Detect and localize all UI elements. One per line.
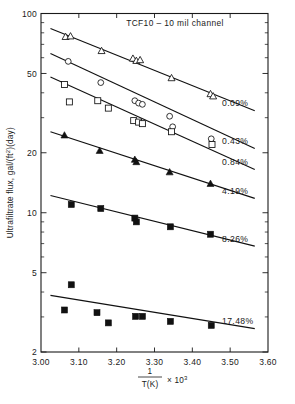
- x-tick-label: 3.60: [259, 357, 277, 367]
- data-point: [61, 82, 67, 88]
- series-label-009: 0.09%: [222, 98, 248, 108]
- series-1748: 17.48%: [50, 282, 254, 329]
- data-point: [98, 206, 104, 212]
- data-point: [133, 219, 139, 225]
- x-tick-label: 3.30: [146, 357, 164, 367]
- data-point: [209, 142, 215, 148]
- data-point: [61, 307, 67, 313]
- data-point: [98, 80, 104, 86]
- y-tick-label: 5: [32, 268, 37, 278]
- data-point: [208, 322, 214, 328]
- plot-title: TCF10 – 10 mil channel: [126, 18, 224, 28]
- y-tick-label: 100: [22, 9, 37, 19]
- data-point: [208, 136, 214, 142]
- series-label-084: 0.84%: [222, 157, 248, 167]
- x-tick-label: 3.20: [108, 357, 126, 367]
- x-axis-title-numerator: 1: [148, 367, 153, 376]
- data-point: [105, 105, 111, 111]
- data-point: [66, 99, 72, 105]
- data-point: [68, 282, 74, 288]
- x-axis-title-denominator: T(K): [142, 380, 159, 389]
- data-point: [207, 231, 213, 237]
- data-point: [169, 129, 175, 135]
- data-point: [139, 101, 145, 107]
- data-point: [167, 113, 173, 119]
- chart-figure: 3.003.103.203.303.403.503.60100502010520…: [0, 0, 295, 404]
- series-label-419: 4.19%: [222, 186, 248, 196]
- data-point: [65, 58, 71, 64]
- series-label-043: 0.43%: [222, 136, 248, 146]
- series-label-826: 8.26%: [222, 234, 248, 244]
- data-point: [133, 313, 139, 319]
- y-tick-label: 2: [32, 347, 37, 357]
- y-tick-label: 50: [27, 69, 37, 79]
- series-084: 0.84%: [50, 77, 254, 169]
- data-point: [68, 201, 74, 207]
- x-tick-label: 3.10: [70, 357, 88, 367]
- data-point: [95, 98, 101, 104]
- x-tick-label: 3.50: [221, 357, 239, 367]
- series-826: 8.26%: [50, 196, 254, 247]
- x-tick-label: 3.40: [183, 357, 201, 367]
- data-point: [168, 74, 175, 80]
- x-tick-label: 3.00: [32, 357, 50, 367]
- data-point: [61, 132, 68, 138]
- plot-frame: [41, 14, 268, 353]
- data-point: [105, 320, 111, 326]
- data-point: [167, 224, 173, 230]
- data-point: [139, 121, 145, 127]
- y-tick-label: 20: [27, 148, 37, 158]
- data-point: [139, 313, 145, 319]
- y-tick-label: 10: [27, 208, 37, 218]
- y-axis-title: Ultrafiltrate flux, gal/(ft2)(day): [5, 127, 15, 238]
- data-point: [167, 318, 173, 324]
- data-point: [94, 310, 100, 316]
- x-axis-title-multiplier: × 103: [167, 375, 188, 385]
- series-label-1748: 17.48%: [222, 316, 254, 326]
- series-009: 0.09%: [50, 29, 254, 111]
- fit-line: [50, 77, 254, 169]
